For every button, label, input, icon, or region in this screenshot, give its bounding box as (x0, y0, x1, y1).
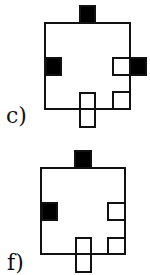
bottom-straddling-white-rectangle (75, 237, 92, 273)
right-inside-white-square (107, 202, 126, 221)
top-black-square (74, 150, 92, 169)
bottom-right-white-square (107, 237, 126, 255)
figure-label-f: f) (7, 252, 24, 274)
left-black-square (41, 202, 58, 221)
